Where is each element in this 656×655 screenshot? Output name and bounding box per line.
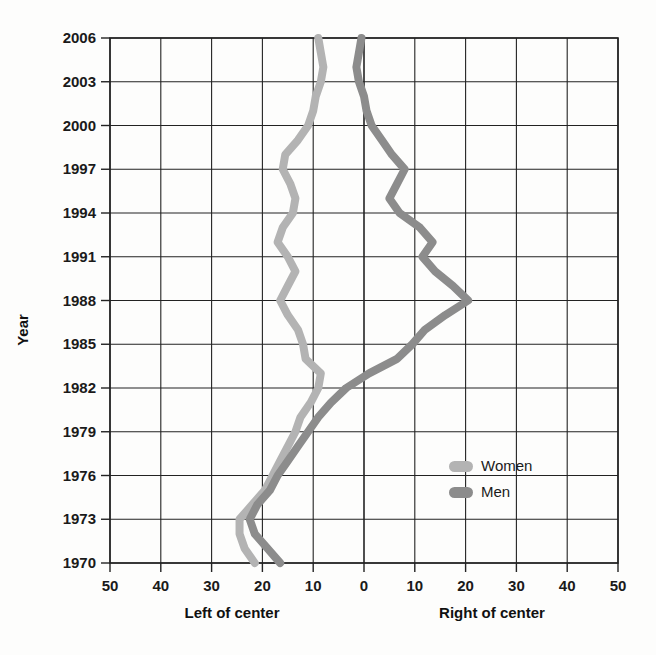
y-tick-label: 1988 <box>63 292 96 309</box>
y-tick-label: 1985 <box>63 335 96 352</box>
x-tick-label: 20 <box>254 577 271 594</box>
y-axis-title: Year <box>14 314 31 346</box>
y-tick-label: 1973 <box>63 510 96 527</box>
chart-background <box>0 0 656 655</box>
y-tick-label: 2000 <box>63 117 96 134</box>
legend-swatch-women <box>449 461 473 472</box>
political-ideology-line-chart: 504030201001020304050 197019731976197919… <box>0 0 656 655</box>
x-axis-title-left: Left of center <box>184 604 279 621</box>
x-tick-label: 30 <box>508 577 525 594</box>
y-tick-label: 2003 <box>63 73 96 90</box>
x-tick-label: 40 <box>152 577 169 594</box>
legend-swatch-men <box>449 487 473 498</box>
chart-figure: 504030201001020304050 197019731976197919… <box>0 0 656 655</box>
x-tick-label: 10 <box>305 577 322 594</box>
x-axis-title-right: Right of center <box>439 604 545 621</box>
y-tick-label: 1979 <box>63 423 96 440</box>
x-tick-label: 30 <box>203 577 220 594</box>
y-tick-label: 1994 <box>63 204 97 221</box>
legend-label-women: Women <box>481 457 532 474</box>
legend-label-men: Men <box>481 483 510 500</box>
x-tick-label: 50 <box>610 577 627 594</box>
y-tick-label: 2006 <box>63 29 96 46</box>
y-tick-label: 1976 <box>63 467 96 484</box>
y-tick-label: 1982 <box>63 379 96 396</box>
x-tick-label: 20 <box>457 577 474 594</box>
x-tick-label: 10 <box>406 577 423 594</box>
x-tick-label: 0 <box>360 577 368 594</box>
y-tick-label: 1970 <box>63 554 96 571</box>
y-tick-label: 1997 <box>63 160 96 177</box>
x-tick-label: 40 <box>559 577 576 594</box>
y-tick-label: 1991 <box>63 248 96 265</box>
x-tick-label: 50 <box>102 577 119 594</box>
